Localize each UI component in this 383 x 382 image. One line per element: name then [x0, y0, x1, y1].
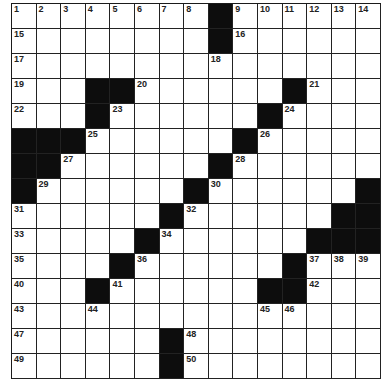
- grid-cell[interactable]: 26: [258, 129, 283, 154]
- grid-cell[interactable]: [332, 354, 357, 379]
- grid-cell[interactable]: [209, 254, 234, 279]
- grid-cell[interactable]: [37, 104, 62, 129]
- grid-cell[interactable]: 27: [61, 154, 86, 179]
- grid-cell[interactable]: [135, 304, 160, 329]
- grid-cell[interactable]: [209, 229, 234, 254]
- grid-cell[interactable]: 18: [209, 54, 234, 79]
- grid-cell[interactable]: [110, 204, 135, 229]
- grid-cell[interactable]: [184, 254, 209, 279]
- grid-cell[interactable]: [332, 54, 357, 79]
- grid-cell[interactable]: [307, 179, 332, 204]
- grid-cell[interactable]: [258, 79, 283, 104]
- grid-cell[interactable]: 28: [233, 154, 258, 179]
- grid-cell[interactable]: 50: [184, 354, 209, 379]
- grid-cell[interactable]: [209, 129, 234, 154]
- grid-cell[interactable]: [184, 79, 209, 104]
- grid-cell[interactable]: [283, 29, 308, 54]
- grid-cell[interactable]: [332, 154, 357, 179]
- grid-cell[interactable]: [258, 329, 283, 354]
- grid-cell[interactable]: [233, 279, 258, 304]
- grid-cell[interactable]: [61, 279, 86, 304]
- grid-cell[interactable]: [135, 354, 160, 379]
- grid-cell[interactable]: [283, 354, 308, 379]
- grid-cell[interactable]: [37, 279, 62, 304]
- grid-cell[interactable]: [233, 329, 258, 354]
- grid-cell[interactable]: 37: [307, 254, 332, 279]
- grid-cell[interactable]: 43: [12, 304, 37, 329]
- grid-cell[interactable]: [258, 354, 283, 379]
- grid-cell[interactable]: [160, 29, 185, 54]
- grid-cell[interactable]: 8: [184, 4, 209, 29]
- grid-cell[interactable]: [209, 204, 234, 229]
- grid-cell[interactable]: [184, 229, 209, 254]
- grid-cell[interactable]: 45: [258, 304, 283, 329]
- grid-cell[interactable]: [110, 304, 135, 329]
- grid-cell[interactable]: [283, 154, 308, 179]
- grid-cell[interactable]: [37, 329, 62, 354]
- grid-cell[interactable]: [233, 179, 258, 204]
- grid-cell[interactable]: [37, 229, 62, 254]
- grid-cell[interactable]: 47: [12, 329, 37, 354]
- grid-cell[interactable]: [110, 154, 135, 179]
- grid-cell[interactable]: [160, 129, 185, 154]
- grid-cell[interactable]: 32: [184, 204, 209, 229]
- grid-cell[interactable]: [110, 229, 135, 254]
- grid-cell[interactable]: 23: [110, 104, 135, 129]
- grid-cell[interactable]: [37, 254, 62, 279]
- grid-cell[interactable]: [110, 329, 135, 354]
- grid-cell[interactable]: [110, 29, 135, 54]
- grid-cell[interactable]: [307, 29, 332, 54]
- grid-cell[interactable]: [209, 279, 234, 304]
- grid-cell[interactable]: [135, 54, 160, 79]
- grid-cell[interactable]: [258, 229, 283, 254]
- grid-cell[interactable]: [61, 354, 86, 379]
- grid-cell[interactable]: [332, 79, 357, 104]
- grid-cell[interactable]: 46: [283, 304, 308, 329]
- grid-cell[interactable]: [356, 304, 381, 329]
- grid-cell[interactable]: [233, 254, 258, 279]
- grid-cell[interactable]: [209, 79, 234, 104]
- grid-cell[interactable]: 15: [12, 29, 37, 54]
- grid-cell[interactable]: [233, 229, 258, 254]
- grid-cell[interactable]: [37, 204, 62, 229]
- grid-cell[interactable]: [61, 79, 86, 104]
- grid-cell[interactable]: [61, 104, 86, 129]
- grid-cell[interactable]: [37, 29, 62, 54]
- grid-cell[interactable]: [356, 329, 381, 354]
- grid-cell[interactable]: [184, 29, 209, 54]
- grid-cell[interactable]: [61, 329, 86, 354]
- grid-cell[interactable]: 36: [135, 254, 160, 279]
- grid-cell[interactable]: [356, 29, 381, 54]
- grid-cell[interactable]: [332, 279, 357, 304]
- grid-cell[interactable]: 21: [307, 79, 332, 104]
- grid-cell[interactable]: [356, 154, 381, 179]
- grid-cell[interactable]: [184, 304, 209, 329]
- grid-cell[interactable]: 38: [332, 254, 357, 279]
- grid-cell[interactable]: [135, 154, 160, 179]
- grid-cell[interactable]: 3: [61, 4, 86, 29]
- grid-cell[interactable]: [184, 104, 209, 129]
- grid-cell[interactable]: [209, 304, 234, 329]
- grid-cell[interactable]: 12: [307, 4, 332, 29]
- grid-cell[interactable]: 17: [12, 54, 37, 79]
- grid-cell[interactable]: 11: [283, 4, 308, 29]
- grid-cell[interactable]: 42: [307, 279, 332, 304]
- grid-cell[interactable]: 20: [135, 79, 160, 104]
- grid-cell[interactable]: [209, 329, 234, 354]
- grid-cell[interactable]: [209, 354, 234, 379]
- grid-cell[interactable]: 4: [86, 4, 111, 29]
- grid-cell[interactable]: [61, 229, 86, 254]
- grid-cell[interactable]: [356, 279, 381, 304]
- grid-cell[interactable]: 5: [110, 4, 135, 29]
- grid-cell[interactable]: [135, 29, 160, 54]
- grid-cell[interactable]: [61, 304, 86, 329]
- grid-cell[interactable]: [86, 54, 111, 79]
- grid-cell[interactable]: [283, 329, 308, 354]
- grid-cell[interactable]: [332, 179, 357, 204]
- grid-cell[interactable]: [86, 179, 111, 204]
- grid-cell[interactable]: [86, 29, 111, 54]
- grid-cell[interactable]: [258, 254, 283, 279]
- grid-cell[interactable]: 33: [12, 229, 37, 254]
- grid-cell[interactable]: [110, 54, 135, 79]
- grid-cell[interactable]: [86, 229, 111, 254]
